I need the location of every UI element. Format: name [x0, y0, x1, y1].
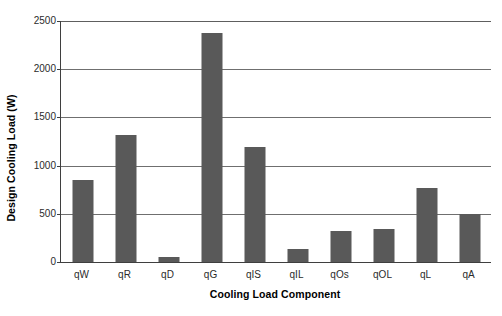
bar-qR[interactable]	[115, 135, 136, 262]
bar-qOL[interactable]	[373, 229, 394, 262]
y-axis-tick-label: 1000	[22, 160, 56, 172]
y-axis-tick-label: 2000	[22, 63, 56, 75]
bar-qD[interactable]	[158, 257, 179, 262]
bar-slot	[405, 21, 448, 262]
bar-slot	[61, 21, 104, 262]
bar-slot	[362, 21, 405, 262]
bar-qW[interactable]	[72, 180, 93, 262]
bar-qIS[interactable]	[244, 147, 265, 262]
bar-slot	[233, 21, 276, 262]
x-axis-tick-label-qOs: qOs	[319, 268, 361, 282]
bar-qOs[interactable]	[330, 231, 351, 262]
y-axis-tick	[57, 262, 61, 263]
bar-slot	[319, 21, 362, 262]
y-axis-title: Design Cooling Load (W)	[0, 0, 22, 316]
bar-slot	[104, 21, 147, 262]
y-axis-tick-label: 2500	[22, 15, 56, 27]
x-axis-tick-label-qG: qG	[190, 268, 232, 282]
x-axis-tick-labels: qWqRqDqGqISqILqOsqOLqLqA	[60, 268, 490, 284]
bars-layer	[61, 21, 491, 262]
bar-qA[interactable]	[459, 214, 480, 262]
y-axis-tick-labels: 05001000150020002500	[22, 14, 56, 269]
plot-area	[60, 21, 491, 262]
x-axis-tick-label-qD: qD	[147, 268, 189, 282]
x-axis-tick-label-qIL: qIL	[276, 268, 318, 282]
bar-qIL[interactable]	[287, 249, 308, 262]
x-axis-tick-label-qOL: qOL	[362, 268, 404, 282]
x-axis-tick-label-qIS: qIS	[233, 268, 275, 282]
bar-slot	[448, 21, 491, 262]
x-axis-tick-label-qR: qR	[104, 268, 146, 282]
bar-slot	[276, 21, 319, 262]
x-axis-tick-label-qA: qA	[448, 268, 490, 282]
x-axis-tick-label-qL: qL	[405, 268, 447, 282]
bar-qL[interactable]	[416, 188, 437, 262]
bar-chart: Design Cooling Load (W) 0500100015002000…	[0, 0, 502, 316]
bar-slot	[190, 21, 233, 262]
y-axis-tick-label: 0	[22, 256, 56, 268]
y-axis-tick-label: 1500	[22, 111, 56, 123]
y-axis-tick-label: 500	[22, 208, 56, 220]
x-axis-title: Cooling Load Component	[60, 288, 490, 300]
gridline	[61, 262, 491, 263]
bar-slot	[147, 21, 190, 262]
bar-qG[interactable]	[201, 33, 222, 262]
x-axis-tick-label-qW: qW	[61, 268, 103, 282]
